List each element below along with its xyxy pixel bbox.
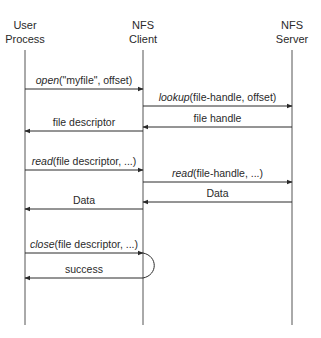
message-label-file-handle: file handle <box>143 112 292 124</box>
message-label-file-descriptor: file descriptor <box>25 116 143 128</box>
message-label-read-server: read(file-handle, ...) <box>143 167 292 179</box>
actor-label-line1: NFS <box>108 18 178 32</box>
message-label-success: success <box>25 263 143 275</box>
actor-label-line1: NFS <box>257 18 321 32</box>
actor-label-line2: Client <box>108 32 178 46</box>
message-label-lookup: lookup(file-handle, offset) <box>143 91 292 103</box>
self-loop-close <box>143 253 154 278</box>
actor-label-line1: User <box>0 18 60 32</box>
actor-nfs-client: NFS Client <box>108 18 178 46</box>
message-label-close: close(file descriptor, ...) <box>25 238 143 250</box>
message-label-open: open("myfile", offset) <box>25 74 143 86</box>
message-label-read-client: read(file descriptor, ...) <box>25 155 143 167</box>
actor-user-process: User Process <box>0 18 60 46</box>
message-label-data-server: Data <box>143 187 292 199</box>
actor-label-line2: Process <box>0 32 60 46</box>
actor-nfs-server: NFS Server <box>257 18 321 46</box>
message-label-data-client: Data <box>25 194 143 206</box>
actor-label-line2: Server <box>257 32 321 46</box>
